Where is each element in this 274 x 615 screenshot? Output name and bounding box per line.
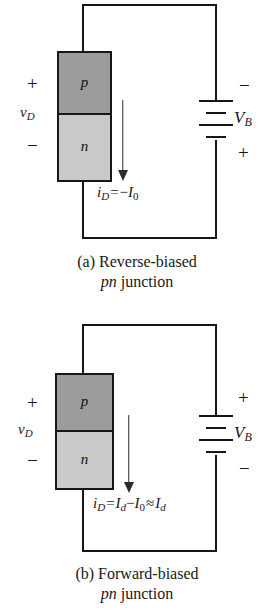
wire-right-upper — [215, 4, 217, 100]
battery-symbol — [198, 100, 234, 140]
equals-operator-1: = — [105, 495, 115, 511]
current-arrow — [123, 415, 134, 493]
battery-plate-short-1 — [206, 112, 226, 114]
wire-top — [82, 324, 217, 326]
current-arrow-head — [124, 482, 134, 493]
approx-operator: ≈ — [145, 495, 155, 511]
panel-caption-b: (b) Forward-biased pn junction — [0, 564, 274, 603]
diode-plus-sign: + — [27, 74, 38, 93]
n-region: n — [59, 115, 110, 180]
diode-voltage-label: vD — [20, 105, 35, 122]
wire-left-upper — [82, 4, 84, 53]
current-arrow — [117, 100, 128, 181]
battery-bottom-sign: + — [238, 143, 249, 162]
n-region-label: n — [81, 139, 89, 154]
diode-voltage-subscript: D — [25, 427, 33, 439]
equals-operator: = — [109, 184, 119, 200]
current-arrow-shaft — [122, 100, 124, 172]
current-subscript: D — [101, 190, 109, 202]
caption-pn-italic: pn — [101, 273, 117, 290]
battery-top-sign: + — [238, 388, 249, 407]
p-region: p — [57, 375, 112, 432]
wire-right-upper — [215, 324, 217, 415]
wire-bottom — [82, 550, 217, 552]
p-region-label: p — [81, 394, 89, 409]
battery-plate-long-1 — [199, 100, 233, 102]
battery-voltage-subscript: B — [244, 115, 251, 129]
battery-plate-short-1 — [206, 427, 226, 429]
current-arrow-head — [118, 170, 128, 181]
caption-line-1: (a) Reverse-biased — [0, 252, 274, 272]
wire-left-upper — [82, 324, 84, 375]
wire-right-lower — [215, 455, 217, 552]
n-region: n — [57, 432, 112, 488]
diffusion-current-subscript-2: d — [160, 501, 166, 513]
wire-left-lower — [82, 180, 84, 239]
caption-line-2: pn junction — [0, 272, 274, 292]
battery-voltage-symbol: V — [234, 108, 244, 127]
battery-plate-short-2 — [206, 451, 226, 453]
diode-minus-sign: − — [27, 136, 38, 155]
p-region-label: p — [81, 75, 89, 90]
current-arrow-shaft — [128, 415, 130, 484]
caption-junction-text: junction — [117, 585, 173, 602]
battery-plate-long-2 — [199, 124, 233, 126]
battery-label: VB — [234, 109, 252, 128]
current-equation: iD=−I0 — [97, 184, 139, 202]
caption-pn-italic: pn — [101, 585, 117, 602]
battery-voltage-subscript: B — [244, 430, 251, 444]
battery-bottom-sign: − — [239, 459, 250, 478]
p-region: p — [59, 53, 110, 115]
minus-operator: − — [126, 495, 134, 511]
battery-voltage-symbol: V — [234, 423, 244, 442]
pn-junction-block: p n — [57, 51, 112, 182]
battery-top-sign: − — [239, 76, 250, 95]
n-region-label: n — [81, 452, 89, 467]
panel-caption-a: (a) Reverse-biased pn junction — [0, 252, 274, 291]
diode-plus-sign: + — [27, 393, 38, 412]
battery-plate-long-2 — [199, 439, 233, 441]
caption-line-1: (b) Forward-biased — [0, 564, 274, 584]
current-equation: iD=Id−I0≈Id — [93, 495, 166, 513]
wire-top — [82, 4, 217, 6]
figure-panel-forward-biased: p n + vD − iD=Id−I0≈Id + VB − (b) Forwar… — [0, 305, 274, 615]
diode-voltage-symbol: v — [20, 104, 27, 120]
wire-left-lower — [82, 490, 84, 552]
diode-voltage-symbol: v — [18, 421, 25, 437]
battery-symbol — [198, 415, 234, 455]
diode-voltage-label: vD — [18, 422, 33, 439]
diode-minus-sign: − — [27, 451, 38, 470]
battery-label: VB — [234, 424, 252, 443]
wire-bottom — [82, 237, 217, 239]
saturation-current-subscript: 0 — [133, 190, 139, 202]
figure-panel-reverse-biased: p n + vD − iD=−I0 − VB + (a) Reverse-bia… — [0, 0, 274, 310]
caption-junction-text: junction — [117, 273, 173, 290]
pn-junction-block: p n — [55, 373, 114, 490]
battery-plate-short-2 — [206, 136, 226, 138]
wire-right-lower — [215, 140, 217, 239]
diode-voltage-subscript: D — [27, 110, 35, 122]
battery-plate-long-1 — [199, 415, 233, 417]
current-subscript: D — [97, 501, 105, 513]
negative-sign: − — [120, 184, 128, 200]
caption-line-2: pn junction — [0, 584, 274, 604]
